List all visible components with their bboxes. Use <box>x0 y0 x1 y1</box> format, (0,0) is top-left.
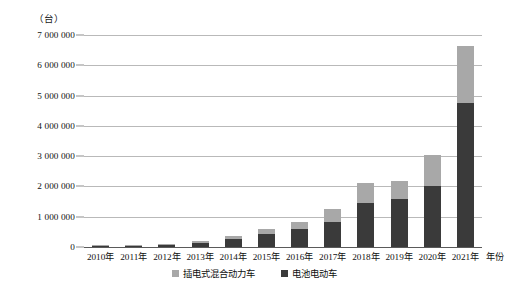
bar-group <box>291 222 308 247</box>
x-axis-line <box>84 247 482 248</box>
y-axis-tick-labels: 01 000 0002 000 0003 000 0004 000 0005 0… <box>0 35 84 247</box>
plot-area <box>84 35 482 247</box>
y-tick-label: 2 000 000 <box>37 181 75 191</box>
x-tick-label: 2021年 <box>452 249 479 263</box>
bar-segment-bev <box>291 229 308 247</box>
y-axis-unit-label: （台） <box>34 11 65 25</box>
x-axis-tick-labels: 2010年2011年2012年2013年2014年2015年2016年2017年… <box>84 249 482 263</box>
bar-segment-phev <box>324 209 341 221</box>
legend-label: 电池电动车 <box>292 266 337 280</box>
y-tick-mark <box>76 156 84 157</box>
x-tick-label: 2016年 <box>286 249 313 263</box>
bar-segment-bev <box>357 203 374 247</box>
y-tick-label: 4 000 000 <box>37 121 75 131</box>
y-tick-label: 0 <box>70 242 75 252</box>
bar-segment-bev <box>125 246 142 247</box>
x-axis-title: 年份 <box>486 249 504 263</box>
y-tick-label: 1 000 000 <box>37 212 75 222</box>
x-tick-label: 2014年 <box>220 249 247 263</box>
bar-group <box>92 245 109 247</box>
y-tick-mark <box>76 247 84 248</box>
bar-group <box>258 229 275 247</box>
x-tick-label: 2019年 <box>385 249 412 263</box>
x-tick-label: 2012年 <box>153 249 180 263</box>
bar-segment-phev <box>357 183 374 203</box>
y-tick-label: 5 000 000 <box>37 91 75 101</box>
y-tick-mark <box>76 65 84 66</box>
bar-segment-bev <box>192 243 209 247</box>
bar-group <box>192 241 209 247</box>
bar-group <box>158 244 175 247</box>
y-tick-mark <box>76 35 84 36</box>
chart-legend: 插电式混合动力车电池电动车 <box>0 266 508 280</box>
y-tick-mark <box>76 216 84 217</box>
stacked-bar-chart: （台） 01 000 0002 000 0003 000 0004 000 00… <box>0 0 508 284</box>
bar-segment-bev <box>258 234 275 247</box>
y-tick-label: 3 000 000 <box>37 151 75 161</box>
bar-segment-phev <box>457 46 474 104</box>
bar-segment-bev <box>92 246 109 247</box>
bar-segment-phev <box>291 222 308 229</box>
x-tick-label: 2013年 <box>186 249 213 263</box>
bar-group <box>324 209 341 247</box>
bar-segment-bev <box>457 103 474 247</box>
y-tick-label: 7 000 000 <box>37 30 75 40</box>
bar-segment-phev <box>424 155 441 187</box>
bar-segment-bev <box>225 239 242 247</box>
bar-series-container <box>84 35 482 247</box>
x-tick-label: 2010年 <box>87 249 114 263</box>
y-tick-mark <box>76 186 84 187</box>
bar-group <box>357 183 374 247</box>
bar-group <box>225 236 242 247</box>
bar-segment-phev <box>391 181 408 199</box>
x-tick-label: 2020年 <box>419 249 446 263</box>
y-tick-mark <box>76 95 84 96</box>
bar-segment-bev <box>158 245 175 247</box>
legend-item: 插电式混合动力车 <box>172 266 255 280</box>
legend-swatch <box>281 270 288 277</box>
bar-group <box>125 245 142 247</box>
legend-label: 插电式混合动力车 <box>183 266 255 280</box>
legend-item: 电池电动车 <box>281 266 337 280</box>
bar-group <box>424 155 441 247</box>
bar-segment-bev <box>391 199 408 247</box>
x-tick-label: 2015年 <box>253 249 280 263</box>
bar-segment-bev <box>324 222 341 247</box>
y-tick-mark <box>76 125 84 126</box>
legend-swatch <box>172 270 179 277</box>
x-tick-label: 2011年 <box>120 249 147 263</box>
bar-group <box>391 181 408 247</box>
x-tick-label: 2017年 <box>319 249 346 263</box>
bar-group <box>457 46 474 247</box>
x-tick-label: 2018年 <box>352 249 379 263</box>
bar-segment-bev <box>424 186 441 247</box>
y-tick-label: 6 000 000 <box>37 60 75 70</box>
